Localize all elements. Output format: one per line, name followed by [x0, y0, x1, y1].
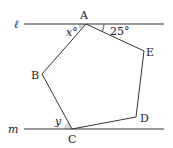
pentagon-abcde [42, 24, 144, 129]
vertex-a-label: A [79, 9, 89, 22]
diagram-canvas: ℓ m A B C D E x° 25° y [0, 0, 173, 148]
vertex-c-label: C [68, 133, 76, 146]
diagram: ℓ m A B C D E x° 25° y [0, 0, 173, 148]
angle-y-label: y [54, 115, 62, 128]
line-m-label: m [8, 123, 18, 136]
line-l-label: ℓ [14, 18, 19, 31]
angle-y-shade [64, 122, 72, 129]
angle-25-label: 25° [110, 25, 130, 38]
vertex-d-label: D [140, 112, 149, 125]
angle-x-label: x° [66, 26, 78, 39]
angle-25-arc [102, 24, 104, 32]
vertex-b-label: B [31, 69, 39, 82]
vertex-e-label: E [146, 46, 154, 59]
